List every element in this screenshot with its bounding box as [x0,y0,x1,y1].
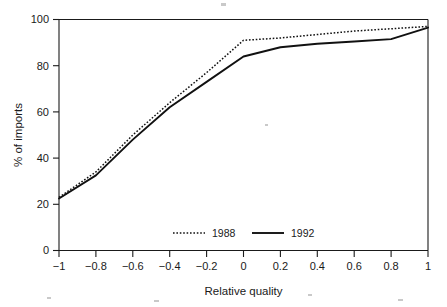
y-axis-title: % of imports [12,103,24,167]
x-tick-label: 0.2 [273,260,288,272]
series-group [59,26,428,198]
y-tick-label: 0 [43,244,49,256]
x-axis-title: Relative quality [205,285,283,297]
x-axis-tick-labels: −1 −0.8 −0.6 −0.4 −0.2 0 0.2 0.4 0.6 0.8… [53,260,431,272]
x-tick-label: −0.2 [196,260,218,272]
chart-figure: 0 20 40 60 80 100 −1 −0.8 −0.6 −0.4 [0,0,447,307]
y-axis-ticks [53,20,59,251]
y-tick-label: 80 [37,60,49,72]
chart-canvas: 0 20 40 60 80 100 −1 −0.8 −0.6 −0.4 [0,0,447,307]
x-tick-label: 1 [425,260,431,272]
y-tick-label: 60 [37,106,49,118]
plot-axes [59,20,428,251]
series-line-1992 [59,28,428,199]
x-tick-label: 0.6 [347,260,362,272]
scan-artifacts [47,3,403,302]
x-tick-label: −0.4 [159,260,181,272]
x-tick-label: −0.8 [85,260,107,272]
y-tick-label: 40 [37,152,49,164]
x-tick-label: 0.8 [383,260,398,272]
series-line-1988 [59,26,428,197]
legend-label-1992: 1992 [291,227,315,239]
x-tick-label: −0.6 [122,260,144,272]
y-tick-label: 20 [37,198,49,210]
chart-legend: 1988 1992 [173,227,315,239]
x-axis-ticks [59,251,428,258]
x-tick-label: −1 [53,260,66,272]
x-tick-label: 0.4 [310,260,325,272]
legend-label-1988: 1988 [212,227,236,239]
y-tick-label: 100 [31,13,49,25]
x-tick-label: 0 [240,260,246,272]
y-axis-tick-labels: 0 20 40 60 80 100 [31,13,49,256]
